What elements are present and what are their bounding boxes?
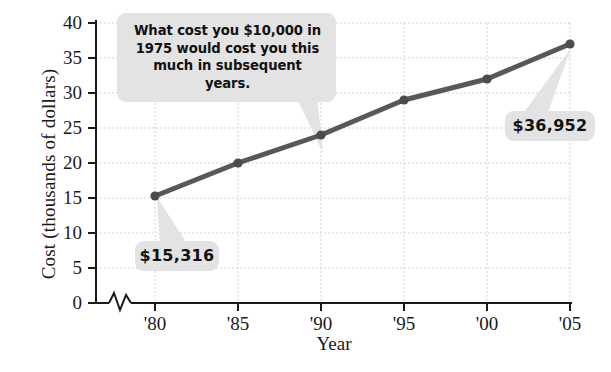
line-chart: 40 35 30 25 20 15 10 5 0 '80 '85 '90 '95…: [0, 0, 611, 372]
x-tick-label-00: '00: [462, 314, 512, 333]
end-value-label: $36,952: [505, 111, 595, 141]
x-tick-label-80: '80: [130, 314, 180, 333]
annotation-callout: What cost you $10,000 in 1975 would cost…: [117, 13, 336, 102]
x-axis-ticks: [155, 303, 570, 311]
data-point: [482, 74, 491, 83]
data-point: [399, 95, 408, 104]
data-point: [316, 130, 325, 139]
data-point: [233, 158, 242, 167]
y-tick-label-40: 40: [38, 13, 82, 32]
x-axis-title: Year: [95, 333, 573, 355]
annotation-callout-line-3: much in subsequent years.: [129, 57, 326, 92]
x-tick-label-95: '95: [379, 314, 429, 333]
y-axis-title: Cost (thousands of dollars): [38, 39, 60, 309]
data-point: [565, 39, 574, 48]
x-tick-label-05: '05: [545, 314, 595, 333]
start-value-label: $15,316: [135, 241, 219, 271]
annotation-callout-line-2: 1975 would cost you this: [129, 40, 326, 58]
y-axis-ticks: [88, 23, 96, 303]
start-label-tail: [157, 197, 189, 247]
x-tick-label-90: '90: [296, 314, 346, 333]
x-tick-label-85: '85: [213, 314, 263, 333]
x-axis-break-icon: [109, 293, 131, 310]
data-point: [150, 191, 159, 200]
annotation-callout-line-1: What cost you $10,000 in: [129, 22, 326, 40]
